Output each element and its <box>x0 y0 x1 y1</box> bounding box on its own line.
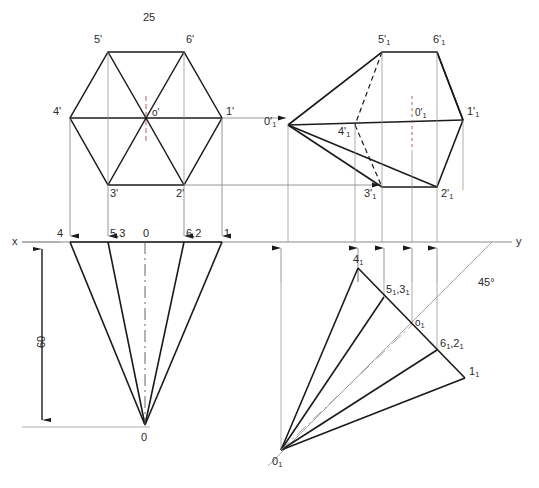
vertex-label-o-prime: o' <box>152 108 159 118</box>
technical-drawing-canvas: 25 60 45° x y 1' 2' 3' 4' 5' 6' o' 4 5,3… <box>0 0 539 488</box>
vertex-label-2-prime: 2' <box>176 188 184 199</box>
vertex-label-3-prime: 3' <box>110 188 118 199</box>
dimension-25-label: 25 <box>143 12 155 23</box>
vertex-label-6-prime-1: 6'1 <box>433 34 445 45</box>
front-view-hexagon <box>70 52 222 185</box>
y-axis-label: y <box>516 236 522 247</box>
vertex-label-3-prime-1: 3'1 <box>364 188 376 199</box>
orthographic-projection-svg <box>0 0 539 488</box>
vertex-label-1-prime-1: 1'1 <box>467 106 479 117</box>
vertex-label-4-prime: 4' <box>53 106 61 117</box>
vertex-label-4-sub1: 41 <box>353 254 363 265</box>
axis-point-label-0: 0 <box>143 228 149 239</box>
vertex-label-4-prime-1: 4'1 <box>338 126 350 137</box>
auxiliary-view-right-upper <box>288 52 463 242</box>
dimension-60 <box>22 242 150 427</box>
apex-label-0: 0 <box>141 432 147 443</box>
top-view-fan-left <box>70 242 222 425</box>
angle-45-label: 45° <box>478 277 495 288</box>
vertex-label-6-prime: 6' <box>186 34 194 45</box>
center-label-0-prime-1: 0'1 <box>415 108 427 118</box>
axis-point-label-6-2: 6,2 <box>186 228 201 239</box>
vertex-label-6-2-sub1: 61,21 <box>440 338 464 349</box>
vertex-label-0-prime-1: 0'1 <box>264 116 276 127</box>
vertex-label-5-prime-1: 5'1 <box>378 34 390 45</box>
vertex-label-5-prime: 5' <box>94 34 102 45</box>
miter-line-45 <box>268 242 492 466</box>
axis-point-label-4: 4 <box>57 228 63 239</box>
axis-point-label-5-3: 5,3 <box>110 228 125 239</box>
vertex-label-2-prime-1: 2'1 <box>441 188 453 199</box>
auxiliary-view-right-lower <box>281 268 465 450</box>
vertex-label-1-sub1: 11 <box>469 366 479 377</box>
dimension-60-label: 60 <box>36 336 47 348</box>
axis-point-label-1: 1 <box>224 228 230 239</box>
apex-label-0-sub1: 01 <box>272 456 282 467</box>
x-axis-label: x <box>12 236 18 247</box>
vertex-label-o-sub1: o1 <box>415 318 425 328</box>
vertex-label-1-prime: 1' <box>226 106 234 117</box>
vertex-label-5-3-sub1: 51,31 <box>386 284 410 295</box>
